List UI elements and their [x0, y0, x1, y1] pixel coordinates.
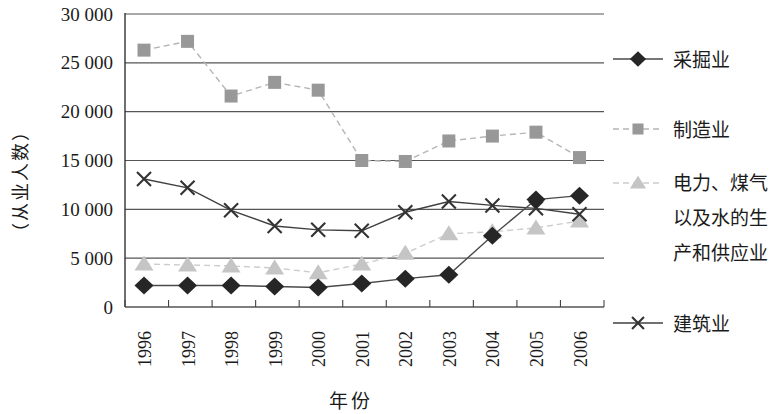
diamond-marker-icon	[309, 278, 328, 296]
diamond-marker-icon	[222, 277, 241, 295]
square-marker-icon	[399, 155, 412, 168]
y-tick-label: 5 000	[70, 248, 113, 269]
square-marker-icon	[529, 126, 542, 139]
diamond-marker-icon	[570, 187, 589, 205]
x-marker-icon	[398, 205, 412, 219]
legend-marker-diamond	[612, 46, 664, 72]
x-tick-label: 2000	[309, 331, 329, 367]
series-manufacturing	[138, 35, 587, 168]
x-tick-label: 1997	[179, 331, 199, 367]
x-tick-label: 1996	[135, 331, 155, 367]
diamond-marker-icon	[135, 277, 154, 295]
legend-label: 建筑业	[673, 309, 730, 336]
series-line-construction	[144, 179, 580, 231]
x-axis-title: 年份	[306, 386, 396, 413]
x-tick-label: 2006	[571, 331, 591, 367]
x-tick-label: 2004	[483, 331, 503, 367]
diamond-marker-icon	[352, 275, 371, 293]
x-tick-label: 2001	[353, 331, 373, 367]
legend-item-construction: 建筑业	[612, 309, 730, 336]
diamond-marker-icon	[178, 277, 197, 295]
square-marker-icon	[442, 134, 455, 147]
legend-label: 电力、煤气以及水的生产和供应业	[673, 166, 771, 271]
series-line-manufacturing	[144, 41, 580, 161]
y-tick-label: 15 000	[61, 150, 113, 171]
square-marker-icon	[225, 90, 238, 103]
y-tick-label: 30 000	[61, 4, 113, 25]
square-marker-icon	[268, 76, 281, 89]
square-marker-icon	[573, 151, 586, 164]
chart-legend: 采掘业制造业电力、煤气以及水的生产和供应业建筑业	[612, 0, 774, 414]
triangle-marker-icon	[265, 259, 284, 274]
square-marker-icon	[312, 84, 325, 97]
triangle-marker-icon	[178, 257, 197, 272]
diamond-marker-icon	[396, 270, 415, 288]
x-tick-label: 1998	[222, 331, 242, 367]
square-marker-icon	[138, 44, 151, 57]
square-marker-icon	[632, 123, 643, 134]
triangle-marker-icon	[222, 257, 241, 272]
legend-item-mining: 采掘业	[612, 45, 730, 72]
y-tick-label: 0	[104, 297, 114, 318]
series-mining	[135, 187, 590, 297]
chart-figure: 05 00010 00015 00020 00025 00030 0001996…	[0, 0, 774, 414]
square-marker-icon	[355, 154, 368, 167]
square-marker-icon	[486, 130, 499, 143]
x-tick-label: 1999	[266, 331, 286, 367]
x-tick-label: 2003	[440, 331, 460, 367]
x-tick-label: 2005	[527, 331, 547, 367]
x-tick-label: 2002	[396, 331, 416, 367]
legend-item-manufacturing: 制造业	[612, 115, 730, 142]
triangle-marker-icon	[396, 245, 415, 260]
legend-marker-triangle	[612, 170, 664, 196]
diamond-marker-icon	[265, 277, 284, 295]
y-tick-label: 25 000	[61, 52, 113, 73]
legend-marker-square	[612, 116, 664, 142]
legend-item-utilities: 电力、煤气以及水的生产和供应业	[612, 170, 771, 271]
legend-label: 采掘业	[673, 45, 730, 72]
x-marker-icon	[137, 172, 151, 186]
square-marker-icon	[181, 35, 194, 48]
y-axis-title: （从业人数）	[6, 100, 32, 262]
triangle-marker-icon	[630, 176, 646, 189]
x-marker-icon	[181, 181, 195, 195]
series-utilities	[135, 213, 590, 280]
legend-label: 制造业	[673, 115, 730, 142]
series-construction	[137, 172, 587, 238]
triangle-marker-icon	[439, 225, 458, 240]
y-tick-label: 20 000	[61, 101, 113, 122]
legend-marker-x	[612, 310, 664, 336]
diamond-marker-icon	[630, 51, 646, 66]
y-tick-label: 10 000	[61, 199, 113, 220]
x-marker-icon	[224, 203, 238, 217]
